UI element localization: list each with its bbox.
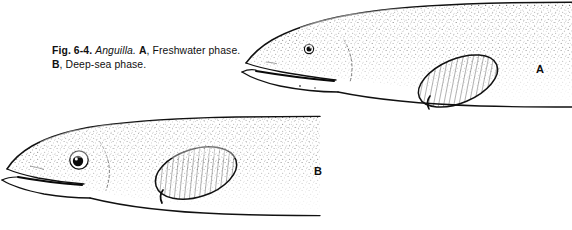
panel-a-eye-highlight (310, 47, 312, 49)
caption-fig-number: Fig. 6-4. (52, 45, 92, 56)
panel-b-dorsal-stipple (40, 118, 322, 158)
panel-b-fish (0, 112, 322, 222)
panel-label-b: B (314, 165, 322, 177)
figure-illustration: Fig. 6-4. Anguilla. A, Freshwater phase.… (0, 0, 572, 230)
panel-a-fish (240, 0, 572, 118)
panel-a-jaw-dot-1 (299, 85, 301, 87)
caption-part-b-text: , Deep-sea phase. (60, 59, 147, 70)
panel-label-a: A (536, 63, 544, 75)
caption-part-a-text: , Freshwater phase. (147, 45, 241, 56)
figure-caption: Fig. 6-4. Anguilla. A, Freshwater phase.… (52, 44, 244, 73)
caption-part-a-label: A (139, 45, 147, 56)
panel-a-jaw-dot-2 (314, 87, 316, 89)
panel-a-dorsal-stipple (300, 6, 572, 46)
caption-genus: Anguilla. (95, 45, 136, 56)
anguilla-figure-svg (0, 0, 572, 230)
caption-part-b-label: B (52, 59, 60, 70)
